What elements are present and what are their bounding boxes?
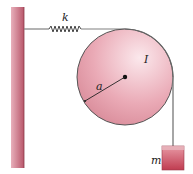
mass-label: m bbox=[151, 154, 161, 167]
radius-label: a bbox=[96, 80, 103, 93]
spring bbox=[49, 26, 81, 32]
mass-top-face bbox=[162, 146, 184, 150]
wall bbox=[11, 7, 24, 168]
inertia-label: I bbox=[143, 53, 149, 66]
spring-label: k bbox=[62, 11, 69, 24]
radius-end-dot bbox=[84, 100, 86, 102]
diagram-canvas: k I a m bbox=[0, 0, 193, 174]
